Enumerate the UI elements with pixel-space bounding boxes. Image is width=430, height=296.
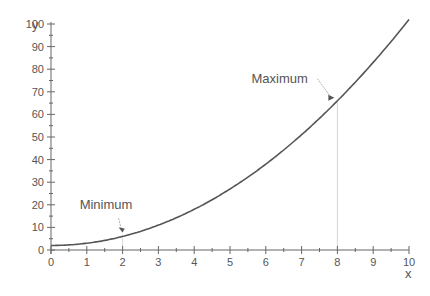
y-tick-label: 90 xyxy=(32,41,44,53)
y-tick-label: 30 xyxy=(32,176,44,188)
y-tick-label: 40 xyxy=(32,154,44,166)
x-tick-label: 6 xyxy=(263,256,269,268)
y-tick-label: 70 xyxy=(32,86,44,98)
x-axis-label: x xyxy=(405,266,412,281)
x-tick-label: 9 xyxy=(370,256,376,268)
x-tick-label: 4 xyxy=(191,256,197,268)
x-tick-label: 1 xyxy=(84,256,90,268)
y-axis-label: y xyxy=(32,17,39,32)
y-tick-label: 10 xyxy=(32,221,44,233)
axes xyxy=(51,22,409,254)
arrow-icon xyxy=(119,227,125,232)
x-tick-label: 7 xyxy=(299,256,305,268)
x-tick-label: 8 xyxy=(334,256,340,268)
y-tick-label: 0 xyxy=(38,244,44,256)
x-tick-label: 2 xyxy=(120,256,126,268)
x-tick-label: 0 xyxy=(48,256,54,268)
y-tick-label: 80 xyxy=(32,63,44,75)
maximum-dropline xyxy=(123,101,338,250)
y-tick-label: 20 xyxy=(32,199,44,211)
x-tick-label: 3 xyxy=(155,256,161,268)
minimum-annotation: Minimum xyxy=(80,197,133,212)
maximum-annotation: Maximum xyxy=(251,71,307,86)
arrow-icon xyxy=(328,95,334,101)
axis-ticks: 0123456789100102030405060708090100 xyxy=(26,18,415,268)
x-tick-label: 5 xyxy=(227,256,233,268)
line-chart: 0123456789100102030405060708090100 Minim… xyxy=(0,0,430,296)
annotations: MinimumMaximum xyxy=(80,71,335,233)
y-tick-label: 50 xyxy=(32,131,44,143)
y-tick-label: 60 xyxy=(32,108,44,120)
